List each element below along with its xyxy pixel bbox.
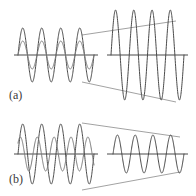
input-waveform-b [14,124,98,184]
lower-connector-b [82,172,180,190]
input-waveform-a [14,28,98,82]
output-waveform-b [107,135,188,173]
figure-canvas [0,0,196,196]
panel-label-b: (b) [9,172,23,187]
waveform-figure: (a) (b) [0,0,196,196]
upper-connector-b [82,123,180,137]
panel-b [14,123,188,190]
upper-connector-a [82,21,176,35]
output-waveform-a [107,10,188,100]
panel-a [14,10,188,102]
panel-label-a: (a) [9,88,22,103]
connector-group-b [82,123,180,190]
